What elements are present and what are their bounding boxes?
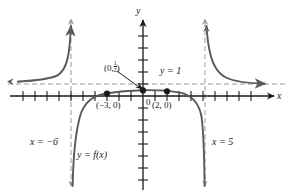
y-intercept-label: (0,12) <box>104 60 120 74</box>
point-x-intercept-right <box>164 88 170 94</box>
point-x-intercept-left <box>104 91 110 97</box>
y-intercept-close-paren: ) <box>117 63 120 73</box>
vertical-asymptote-left-label: x = −6 <box>30 137 58 147</box>
curve-left-branch <box>7 26 71 85</box>
graph-figure: y x 0 (0,12) (−3, 0) (2, 0) y = 1 x = −6… <box>0 0 293 195</box>
curve-middle-branch <box>73 90 205 186</box>
vertical-asymptote-right-label: x = 5 <box>212 137 233 147</box>
curve-right-branch <box>203 26 265 84</box>
horizontal-asymptote-label: y = 1 <box>160 66 181 76</box>
x-intercept-left-label: (−3, 0) <box>96 101 121 110</box>
x-intercept-right-label: (2, 0) <box>152 101 172 110</box>
y-intercept-leader-line <box>117 71 144 89</box>
function-label: y = f(x) <box>77 150 107 160</box>
y-intercept-open-paren: (0, <box>104 63 114 73</box>
y-axis-label: y <box>136 6 140 16</box>
origin-label: 0 <box>146 98 151 107</box>
x-axis-label: x <box>277 91 281 101</box>
